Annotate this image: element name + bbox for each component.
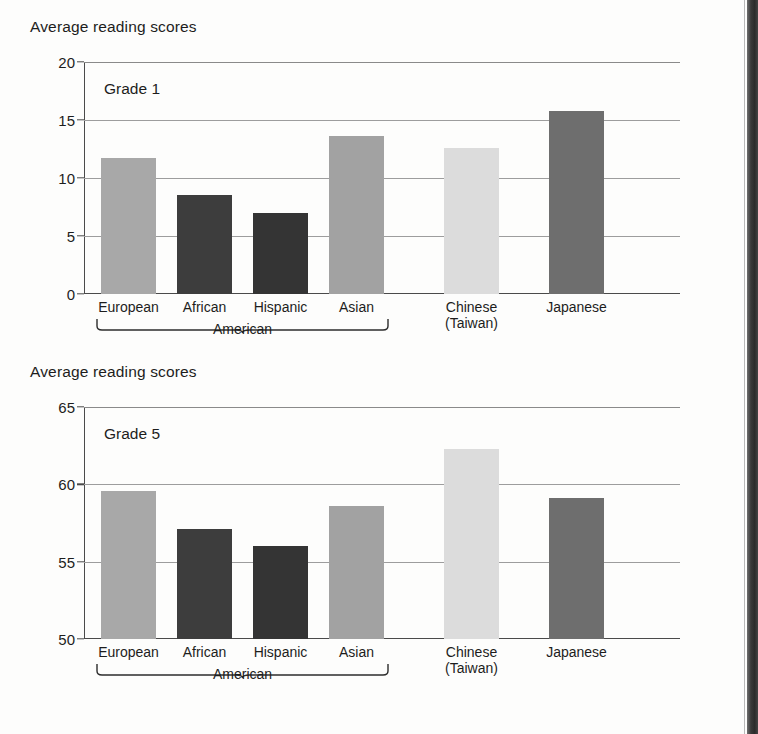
- x-axis-category-label: Japanese: [546, 644, 607, 660]
- category-label-line1: Japanese: [546, 644, 607, 660]
- y-axis-tick-mark: [77, 235, 84, 236]
- category-label-line1: Chinese: [445, 299, 498, 315]
- bar: [101, 158, 156, 294]
- scan-edge-shadow: [747, 0, 758, 734]
- y-axis-tick-mark: [77, 61, 84, 62]
- category-label-line2: (Taiwan): [445, 315, 498, 331]
- y-axis-tick-mark: [77, 406, 84, 407]
- category-label-line1: Asian: [339, 299, 374, 315]
- y-axis-tick-mark: [77, 293, 84, 294]
- gridline: [84, 484, 680, 485]
- category-label-line1: Chinese: [445, 644, 498, 660]
- page-edge-rule: [744, 0, 745, 734]
- y-axis-tick-label: 0: [67, 286, 75, 303]
- x-axis-category-label: African: [183, 644, 227, 660]
- y-axis-tick-label: 10: [58, 170, 75, 187]
- y-axis-tick-label: 60: [58, 476, 75, 493]
- x-axis-category-label: Hispanic: [254, 644, 308, 660]
- y-axis-tick-mark: [77, 119, 84, 120]
- plot-area-grade5: 50556065EuropeanAfricanHispanicAsianChin…: [84, 407, 680, 639]
- bar: [444, 449, 499, 639]
- bar: [444, 148, 499, 294]
- bar: [253, 546, 308, 639]
- chart-title-grade5: Average reading scores: [30, 363, 197, 381]
- bar: [549, 498, 604, 639]
- bar: [329, 136, 384, 294]
- y-axis-tick-mark: [77, 561, 84, 562]
- y-axis-tick-label: 65: [58, 399, 75, 416]
- category-label-line1: European: [98, 299, 159, 315]
- bar: [101, 491, 156, 639]
- y-axis-tick-label: 15: [58, 112, 75, 129]
- x-axis-category-label: European: [98, 299, 159, 315]
- gridline: [84, 62, 680, 63]
- category-label-line1: Asian: [339, 644, 374, 660]
- group-brace-label: American: [213, 666, 272, 682]
- x-axis-category-label: Hispanic: [254, 299, 308, 315]
- category-label-line1: African: [183, 299, 227, 315]
- x-axis-category-label: Japanese: [546, 299, 607, 315]
- y-axis-tick-label: 50: [58, 631, 75, 648]
- y-axis-tick-mark: [77, 177, 84, 178]
- gridline: [84, 407, 680, 408]
- y-axis-tick-label: 20: [58, 54, 75, 71]
- x-axis-category-label: Chinese(Taiwan): [445, 644, 498, 676]
- figure-page: Average reading scores 05101520EuropeanA…: [0, 0, 758, 734]
- x-axis-category-label: Asian: [339, 644, 374, 660]
- bar: [549, 111, 604, 294]
- bar: [329, 506, 384, 639]
- x-axis-category-label: European: [98, 644, 159, 660]
- category-label-line1: Japanese: [546, 299, 607, 315]
- category-label-line2: (Taiwan): [445, 660, 498, 676]
- y-axis-tick-label: 55: [58, 553, 75, 570]
- panel-label-grade1: Grade 1: [104, 80, 160, 98]
- x-axis-category-label: African: [183, 299, 227, 315]
- y-axis-tick-mark: [77, 638, 84, 639]
- y-axis-tick-label: 5: [67, 228, 75, 245]
- x-axis-category-label: Chinese(Taiwan): [445, 299, 498, 331]
- category-label-line1: Hispanic: [254, 299, 308, 315]
- panel-label-grade5: Grade 5: [104, 425, 160, 443]
- chart-title-grade1: Average reading scores: [30, 18, 197, 36]
- y-axis-tick-mark: [77, 484, 84, 485]
- category-label-line1: Hispanic: [254, 644, 308, 660]
- bar: [177, 529, 232, 639]
- plot-area-grade1: 05101520EuropeanAfricanHispanicAsianChin…: [84, 62, 680, 294]
- category-label-line1: European: [98, 644, 159, 660]
- bar: [177, 195, 232, 294]
- bar: [253, 213, 308, 294]
- x-axis-category-label: Asian: [339, 299, 374, 315]
- category-label-line1: African: [183, 644, 227, 660]
- group-brace-label: American: [213, 321, 272, 337]
